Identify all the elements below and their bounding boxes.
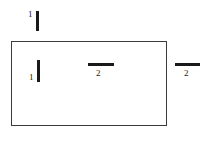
tick-label-top: 1: [28, 10, 33, 19]
tick-label-right: 2: [184, 69, 189, 78]
figure-canvas: 1 1 2 2: [0, 0, 204, 141]
tick-label-inner-left: 1: [29, 73, 34, 82]
tick-label-inner-center: 2: [96, 69, 101, 78]
vertical-tick-icon: [36, 11, 39, 31]
vertical-tick-icon: [37, 60, 40, 82]
horizontal-tick-icon: [88, 63, 114, 66]
horizontal-tick-icon: [175, 63, 200, 66]
rectangle-outline: [11, 41, 167, 126]
